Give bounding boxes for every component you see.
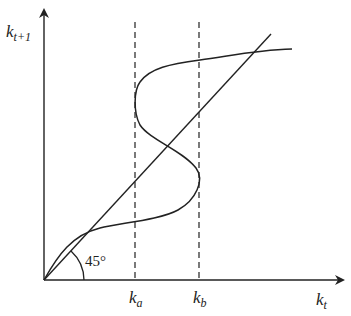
angle-arc — [71, 251, 84, 280]
phase-diagram: kt+1 kt ka kb 45° — [0, 0, 351, 316]
forty-five-degree-line — [44, 34, 271, 280]
x-axis-label: kt — [316, 290, 328, 312]
y-axis-label: kt+1 — [6, 22, 31, 44]
s-curve — [44, 49, 292, 280]
angle-label: 45° — [85, 253, 106, 269]
kb-label: kb — [193, 288, 207, 310]
ka-label: ka — [129, 288, 143, 310]
